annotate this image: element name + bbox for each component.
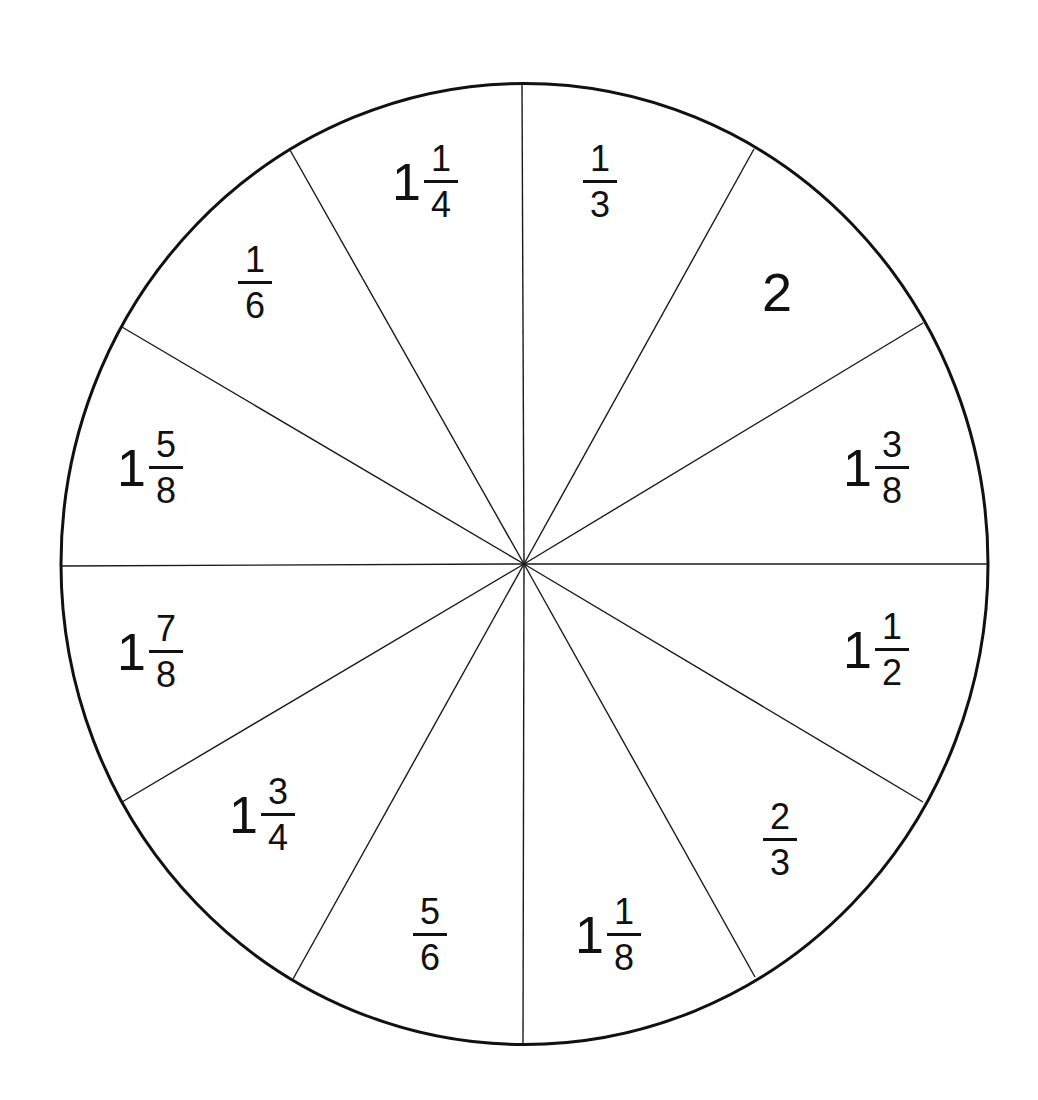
sector-label-s8: 134 [229,774,295,856]
fraction: 58 [149,427,183,509]
fraction: 12 [875,609,909,691]
whole-number: 1 [117,626,146,678]
numerator: 2 [767,799,793,838]
denominator: 4 [265,816,291,856]
denominator: 3 [587,183,613,223]
denominator: 3 [767,841,793,881]
numerator: 3 [265,774,291,813]
fraction: 18 [607,894,641,976]
sector-label-s12: 114 [392,141,458,223]
sector-label-s6: 118 [575,894,641,976]
fraction: 14 [424,141,458,223]
sector-label-s3: 138 [843,427,909,509]
numerator: 5 [153,427,179,466]
sector-label-s2: 2 [762,265,792,319]
fraction: 13 [583,141,617,223]
whole-number: 1 [392,156,421,208]
sector-label-s10: 158 [117,427,183,509]
fraction: 56 [413,894,447,976]
numerator: 3 [879,427,905,466]
whole-number: 1 [575,909,604,961]
numerator: 1 [587,141,613,180]
fraction: 34 [261,774,295,856]
sector-label-s9: 178 [117,611,183,693]
sector-label-s1: 13 [583,141,617,223]
whole-number: 1 [843,442,872,494]
denominator: 6 [242,284,268,324]
fraction: 23 [763,799,797,881]
denominator: 8 [879,469,905,509]
numerator: 7 [153,611,179,650]
numerator: 1 [611,894,637,933]
fraction: 16 [238,242,272,324]
denominator: 8 [153,469,179,509]
denominator: 4 [428,183,454,223]
numerator: 1 [242,242,268,281]
denominator: 8 [153,653,179,693]
denominator: 2 [879,651,905,691]
fraction-wheel [0,0,1038,1100]
sector-label-s4: 112 [843,609,909,691]
whole-number: 1 [117,442,146,494]
fraction: 78 [149,611,183,693]
numerator: 1 [879,609,905,648]
numerator: 5 [417,894,443,933]
spoke-180 [523,564,524,1043]
denominator: 8 [611,936,637,976]
sector-label-s5: 23 [763,799,797,881]
whole-number: 1 [229,789,258,841]
whole-number: 2 [762,265,792,319]
fraction: 38 [875,427,909,509]
whole-number: 1 [843,624,872,676]
numerator: 1 [428,141,454,180]
sector-label-s11: 16 [238,242,272,324]
denominator: 6 [417,936,443,976]
sector-label-s7: 56 [413,894,447,976]
